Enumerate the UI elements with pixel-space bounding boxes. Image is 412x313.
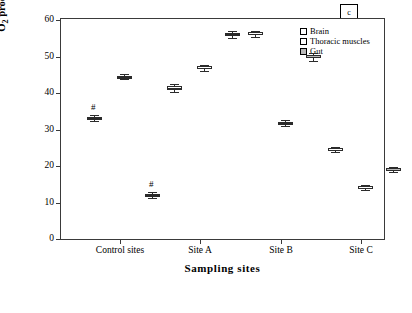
y-tick-mark-20: [56, 166, 60, 167]
median-line: [328, 150, 343, 151]
chart-root: c O2 production (OD/ mg protein/ min) Sa…: [0, 0, 412, 313]
median-line: [225, 34, 240, 35]
y-tick-mark-0: [56, 239, 60, 240]
x-tick-label-site-a: Site A: [160, 245, 240, 255]
median-line: [117, 77, 132, 78]
x-tick-label-site-c: Site C: [321, 245, 401, 255]
whisker-cap-lower: [331, 152, 340, 153]
panel-label: c: [347, 8, 351, 17]
median-line: [278, 123, 293, 124]
whisker-cap-lower: [361, 190, 370, 191]
median-line: [197, 68, 212, 69]
significance-annotation: #: [91, 102, 96, 112]
legend-swatch-brain-icon: [300, 28, 307, 35]
y-tick-label-60: 60: [32, 14, 54, 24]
y-axis-title-sub: 2: [1, 19, 10, 23]
x-axis-title: Sampling sites: [60, 262, 385, 274]
whisker-cap-lower: [170, 92, 179, 93]
median-line: [306, 57, 321, 58]
legend-swatch-thoracic-icon: [300, 38, 307, 45]
median-line: [248, 34, 263, 35]
median-line: [87, 118, 102, 119]
y-tick-mark-60: [56, 20, 60, 21]
y-tick-label-10: 10: [32, 197, 54, 207]
x-tick-label-site-b: Site B: [241, 245, 321, 255]
median-line: [167, 88, 182, 89]
y-tick-label-50: 50: [32, 51, 54, 61]
whisker-cap-lower: [251, 37, 260, 38]
whisker-cap-lower: [148, 198, 157, 199]
y-tick-mark-30: [56, 130, 60, 131]
legend-swatch-gut-icon: [300, 48, 307, 55]
whisker-cap-lower: [200, 71, 209, 72]
x-tick-mark-site-c: [361, 240, 362, 244]
y-axis-title-rest: production (OD/ mg protein/ min): [0, 0, 7, 19]
y-tick-label-40: 40: [32, 87, 54, 97]
y-tick-label-30: 30: [32, 124, 54, 134]
legend-item-thoracic: Thoracic muscles: [300, 36, 378, 46]
whisker-cap-lower: [389, 172, 398, 173]
x-tick-mark-site-b: [281, 240, 282, 244]
whisker-cap-upper: [170, 84, 179, 85]
x-tick-mark-site-a: [200, 240, 201, 244]
median-line: [145, 195, 160, 196]
median-line: [386, 170, 401, 171]
whisker-cap-lower: [281, 126, 290, 127]
whisker-cap-upper: [309, 53, 318, 54]
significance-annotation: #: [149, 179, 154, 189]
whisker-cap-lower: [309, 61, 318, 62]
whisker-cap-lower: [90, 121, 99, 122]
legend-label-thoracic: Thoracic muscles: [310, 36, 370, 46]
y-tick-mark-50: [56, 57, 60, 58]
y-tick-label-0: 0: [32, 233, 54, 243]
y-tick-label-20: 20: [32, 160, 54, 170]
whisker-cap-lower: [120, 79, 129, 80]
whisker-cap-lower: [228, 38, 237, 39]
legend-item-brain: Brain: [300, 26, 378, 36]
legend-label-brain: Brain: [310, 26, 329, 36]
y-tick-mark-40: [56, 93, 60, 94]
legend: Brain Thoracic muscles Gut: [300, 26, 378, 56]
y-tick-mark-10: [56, 203, 60, 204]
y-axis-title-main: O: [0, 23, 7, 31]
median-line: [358, 188, 373, 189]
y-axis-title: O2 production (OD/ mg protein/ min): [0, 0, 10, 38]
x-tick-label-control: Control sites: [80, 245, 160, 255]
x-tick-mark-control: [120, 240, 121, 244]
